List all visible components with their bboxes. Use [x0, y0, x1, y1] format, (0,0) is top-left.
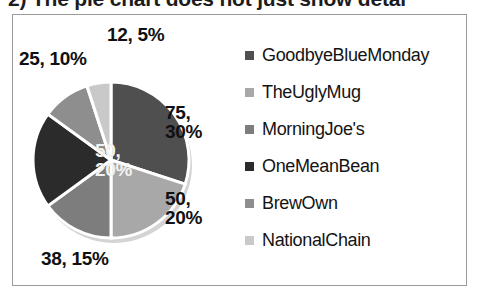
- slice-label-onemeanbean: 50, 20%: [95, 141, 132, 180]
- legend-swatch-icon: [245, 236, 254, 245]
- slice-label-morningjoes: 38, 15%: [41, 249, 109, 268]
- chart-legend: GoodbyeBlueMonday TheUglyMug MorningJoe'…: [245, 37, 465, 259]
- legend-label: BrewOwn: [262, 193, 338, 214]
- legend-label: MorningJoe's: [262, 119, 364, 140]
- legend-item-goodbyebluemonday[interactable]: GoodbyeBlueMonday: [245, 37, 465, 74]
- legend-swatch-icon: [245, 88, 254, 97]
- legend-item-brewown[interactable]: BrewOwn: [245, 185, 465, 222]
- legend-item-morningjoes[interactable]: MorningJoe's: [245, 111, 465, 148]
- legend-swatch-icon: [245, 51, 254, 60]
- legend-label: GoodbyeBlueMonday: [262, 45, 429, 66]
- legend-swatch-icon: [245, 162, 254, 171]
- legend-item-onemeanbean[interactable]: OneMeanBean: [245, 148, 465, 185]
- legend-swatch-icon: [245, 125, 254, 134]
- pie-chart: 75, 30% 50, 20% 38, 15% 50, 20% 25, 10% …: [13, 15, 241, 287]
- slice-label-goodbyebluemonday: 75, 30%: [165, 103, 202, 142]
- caption-text: 2) The pie chart does not just show deta…: [8, 0, 483, 11]
- legend-item-theuglymug[interactable]: TheUglyMug: [245, 74, 465, 111]
- slice-label-theuglymug: 50, 20%: [165, 189, 202, 228]
- legend-item-nationalchain[interactable]: NationalChain: [245, 222, 465, 259]
- chart-frame: 75, 30% 50, 20% 38, 15% 50, 20% 25, 10% …: [12, 14, 467, 286]
- legend-label: TheUglyMug: [262, 82, 361, 103]
- legend-label: NationalChain: [262, 230, 371, 251]
- slice-label-brewown: 25, 10%: [19, 49, 87, 68]
- slice-label-nationalchain: 12, 5%: [107, 25, 164, 44]
- legend-label: OneMeanBean: [262, 156, 379, 177]
- legend-swatch-icon: [245, 199, 254, 208]
